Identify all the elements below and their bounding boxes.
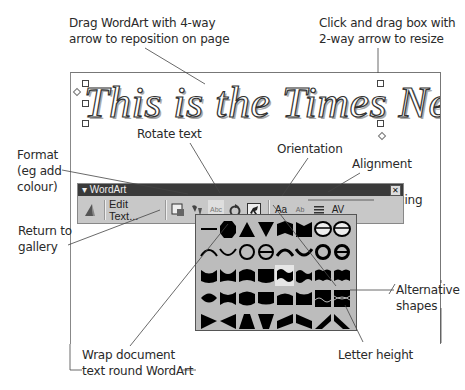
shape-option[interactable]	[256, 219, 275, 240]
close-icon[interactable]: ✕	[390, 185, 401, 196]
shape-preview-icon	[276, 242, 294, 263]
shape-option[interactable]	[275, 242, 294, 263]
shape-preview-icon	[219, 242, 237, 263]
shape-preview-icon	[333, 265, 351, 286]
shape-option[interactable]	[237, 311, 256, 332]
shape-option[interactable]	[218, 311, 237, 332]
edit-text-button[interactable]: Edit Text...	[109, 200, 159, 220]
wordart-gallery-button[interactable]	[170, 200, 186, 220]
shape-option[interactable]	[218, 288, 237, 309]
shape-option[interactable]	[237, 288, 256, 309]
shape-preview-icon	[314, 265, 332, 286]
shape-preview-icon	[314, 311, 332, 332]
shape-option[interactable]	[218, 219, 237, 240]
shape-option[interactable]	[275, 288, 294, 309]
shape-option[interactable]	[237, 219, 256, 240]
gallery-icon	[171, 203, 185, 217]
shape-option[interactable]	[199, 242, 218, 263]
resize-handle-br[interactable]	[377, 120, 384, 127]
annotation-drag-line1: Drag WordArt with 4-way	[69, 16, 215, 31]
shape-preview-icon	[333, 219, 351, 240]
shape-preview-icon	[333, 288, 351, 309]
shape-preview-icon	[314, 219, 332, 240]
shape-option[interactable]	[256, 311, 275, 332]
shape-option[interactable]	[199, 265, 218, 286]
shape-option[interactable]	[313, 219, 332, 240]
annotation-format-line2: (eg add	[17, 164, 62, 179]
shape-option[interactable]	[256, 242, 275, 263]
annotation-return-line2: gallery	[18, 240, 58, 255]
shape-preview-icon	[257, 219, 275, 240]
shape-option[interactable]	[294, 311, 313, 332]
shape-preview-icon	[295, 219, 313, 240]
shape-option[interactable]	[313, 265, 332, 286]
annotation-alternative-line1: Alternative	[396, 283, 460, 298]
shape-option[interactable]	[237, 242, 256, 263]
shape-option[interactable]	[294, 219, 313, 240]
shape-grid[interactable]	[199, 219, 353, 332]
shape-preview-icon	[219, 219, 237, 240]
shape-preview-icon	[333, 242, 351, 263]
shape-option[interactable]	[218, 242, 237, 263]
resize-handle-tr[interactable]	[377, 80, 384, 87]
annotation-wrap-line2: text round WordArt	[82, 364, 193, 379]
shape-option[interactable]	[256, 288, 275, 309]
shape-preview-icon	[333, 311, 351, 332]
shape-preview-icon	[257, 311, 275, 332]
insert-wordart-button[interactable]	[82, 200, 98, 220]
shape-option[interactable]	[294, 265, 313, 286]
annotation-drag-line2: arrow to reposition on page	[69, 32, 229, 47]
wordart-text[interactable]: This is the Times New Roman	[84, 78, 440, 128]
shape-option[interactable]	[275, 311, 294, 332]
annotation-format-line3: colour)	[17, 180, 57, 195]
shape-option[interactable]	[199, 311, 218, 332]
shape-option[interactable]	[256, 265, 275, 286]
shape-option[interactable]	[275, 265, 294, 286]
shape-option[interactable]	[332, 219, 351, 240]
shape-option[interactable]	[313, 242, 332, 263]
shape-preview-icon	[219, 265, 237, 286]
shape-preview-icon	[295, 265, 313, 286]
shape-preview-icon	[257, 242, 275, 263]
wordart-shape-gallery[interactable]	[195, 214, 357, 331]
annotation-resize-line2: 2-way arrow to resize	[319, 32, 444, 47]
shape-option[interactable]	[237, 265, 256, 286]
shape-preview-icon	[257, 265, 275, 286]
shape-option[interactable]	[218, 265, 237, 286]
shape-option[interactable]	[332, 265, 351, 286]
shape-preview-icon	[219, 311, 237, 332]
shape-preview-icon	[295, 288, 313, 309]
shape-option[interactable]	[294, 242, 313, 263]
shape-preview-icon	[314, 242, 332, 263]
resize-handle-bl[interactable]	[82, 120, 89, 127]
annotation-wrap-line1: Wrap document	[82, 348, 175, 363]
shape-option[interactable]	[313, 311, 332, 332]
toolbar-menu-arrow-icon[interactable]: ▾	[82, 184, 87, 195]
shape-option[interactable]	[275, 219, 294, 240]
toolbar-separator	[165, 200, 167, 220]
shape-preview-icon	[200, 265, 218, 286]
shape-preview-icon	[200, 242, 218, 263]
shape-preview-icon	[295, 311, 313, 332]
annotation-return-line1: Return to	[18, 224, 72, 239]
shape-preview-icon	[276, 265, 294, 286]
shape-option[interactable]	[199, 219, 218, 240]
shape-preview-icon	[238, 219, 256, 240]
shape-option[interactable]	[332, 242, 351, 263]
wordart-object[interactable]: This is the Times New Roman	[72, 73, 440, 133]
shape-preview-icon	[200, 311, 218, 332]
annotation-format-line1: Format	[17, 148, 58, 163]
shape-preview-icon	[276, 288, 294, 309]
shape-preview-icon	[238, 311, 256, 332]
shape-option[interactable]	[294, 288, 313, 309]
shape-preview-icon	[314, 288, 332, 309]
annotation-resize-line1: Click and drag box with	[319, 16, 456, 31]
toolbar-title-bar[interactable]: ▾ WordArt ✕	[78, 184, 403, 196]
shape-option[interactable]	[332, 288, 351, 309]
shape-option[interactable]	[332, 311, 351, 332]
shape-option[interactable]	[313, 288, 332, 309]
shape-option[interactable]	[199, 288, 218, 309]
shape-preview-icon	[200, 288, 218, 309]
resize-handle-tl[interactable]	[82, 80, 89, 87]
resize-handle-ml[interactable]	[82, 100, 89, 107]
